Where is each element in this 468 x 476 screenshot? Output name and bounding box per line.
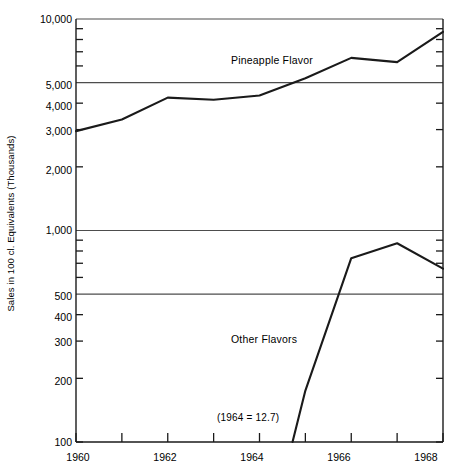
series-line-other-flavors: [293, 243, 443, 442]
y-axis-ticks: [76, 29, 443, 442]
series-line-pineapple-flavor: [76, 32, 443, 131]
data-series-group: [76, 32, 443, 442]
plot-area: [0, 0, 468, 476]
chart-figure: Sales in 100 cl. Equivalents (Thousands)…: [0, 0, 468, 476]
x-axis-ticks: [76, 433, 443, 442]
